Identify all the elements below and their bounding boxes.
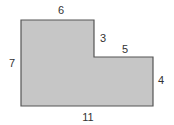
step-vertical-label: 3 bbox=[100, 32, 106, 44]
step-horizontal-label: 5 bbox=[122, 43, 128, 55]
l-shape-diagram: 6 3 5 7 4 11 bbox=[0, 0, 174, 125]
left-side-label: 7 bbox=[9, 57, 15, 69]
right-side-label: 4 bbox=[158, 74, 164, 86]
top-side-label: 6 bbox=[58, 4, 64, 16]
l-shape-polygon bbox=[21, 20, 153, 106]
bottom-side-label: 11 bbox=[82, 111, 93, 123]
